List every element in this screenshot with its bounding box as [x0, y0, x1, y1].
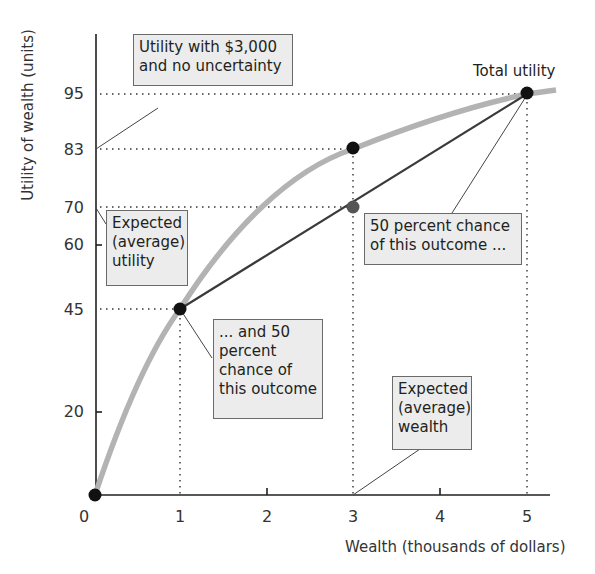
x-tick-label-5: 5	[517, 508, 537, 526]
x-axis-title: Wealth (thousands of dollars)	[345, 538, 566, 556]
leader-expected-utility	[96, 208, 106, 224]
callout-low-outcome: ... and 50 percent chance of this outcom…	[213, 319, 323, 419]
point-3-70	[347, 201, 360, 214]
leader-certain	[96, 108, 158, 149]
y-tick-label-70: 70	[52, 199, 84, 217]
point-origin	[89, 489, 102, 502]
y-tick-label-95: 95	[52, 85, 84, 103]
total-utility-label: Total utility	[473, 62, 555, 80]
leader-low-outcome	[182, 312, 212, 358]
x-tick-label-1: 1	[170, 508, 190, 526]
point-3-83	[347, 142, 360, 155]
callout-expected-utility: Expected (average) utility	[106, 210, 188, 286]
callout-certain-utility: Utility with $3,000 and no uncertainty	[133, 34, 293, 86]
y-axis-title: Utility of wealth (units)	[19, 25, 37, 205]
callout-expected-wealth: Expected (average) wealth	[392, 376, 472, 450]
callout-high-outcome: 50 percent chance of this outcome ...	[364, 213, 522, 265]
total-utility-curve	[95, 90, 556, 495]
x-tick-label-0: 0	[74, 508, 94, 526]
y-tick-label-20: 20	[52, 403, 84, 421]
point-1-45	[174, 303, 187, 316]
chart-canvas	[0, 0, 595, 574]
y-tick-label-45: 45	[52, 301, 84, 319]
y-tick-label-83: 83	[52, 141, 84, 159]
x-tick-label-4: 4	[430, 508, 450, 526]
x-tick-label-2: 2	[257, 508, 277, 526]
utility-chart: Utility of wealth (units) Wealth (thousa…	[0, 0, 595, 574]
point-5-95	[521, 87, 534, 100]
y-tick-label-60: 60	[52, 236, 84, 254]
leader-expected-wealth	[353, 449, 420, 495]
x-tick-label-3: 3	[343, 508, 363, 526]
